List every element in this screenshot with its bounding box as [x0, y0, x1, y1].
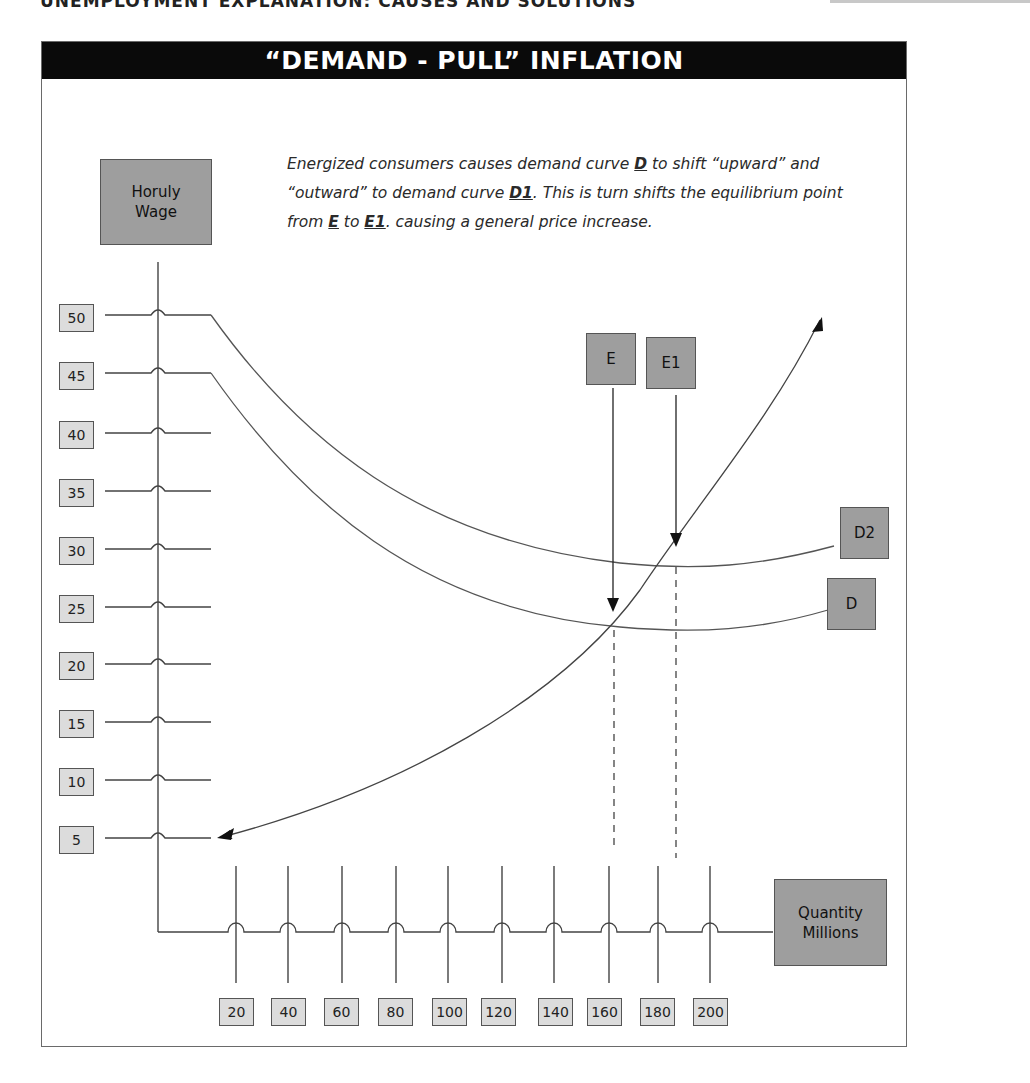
y-axis	[105, 262, 211, 932]
supply-curve	[222, 320, 820, 837]
y-tick-label: 50	[59, 304, 94, 332]
supply-arrowhead-down-icon	[217, 828, 234, 840]
y-tick-text: 30	[68, 543, 86, 559]
x-tick-label: 120	[481, 998, 516, 1026]
x-tick-label: 180	[640, 998, 675, 1026]
y-tick-label: 35	[59, 479, 94, 507]
label-d2-text: D2	[854, 523, 875, 543]
x-tick-text: 160	[591, 1004, 618, 1020]
y-tick-label: 20	[59, 652, 94, 680]
x-tick-text: 20	[228, 1004, 246, 1020]
demand-curve-d2	[211, 315, 834, 567]
x-tick-text: 180	[644, 1004, 671, 1020]
x-tick-label: 80	[378, 998, 413, 1026]
x-tick-text: 80	[387, 1004, 405, 1020]
y-tick-text: 40	[68, 427, 86, 443]
y-tick-text: 45	[68, 368, 86, 384]
x-tick-text: 200	[697, 1004, 724, 1020]
y-tick-text: 5	[72, 832, 81, 848]
x-tick-label: 60	[324, 998, 359, 1026]
x-tick-label: 160	[587, 998, 622, 1026]
y-axis-title-text: Horuly Wage	[121, 182, 191, 222]
x-tick-text: 140	[542, 1004, 569, 1020]
x-axis-title-text: Quantity Millions	[791, 903, 871, 943]
x-tick-text: 60	[333, 1004, 351, 1020]
y-tick-label: 40	[59, 421, 94, 449]
x-tick-text: 100	[436, 1004, 463, 1020]
y-tick-text: 50	[68, 310, 86, 326]
y-tick-text: 10	[68, 774, 86, 790]
label-d: D	[827, 578, 876, 630]
y-tick-label: 5	[59, 826, 94, 854]
x-tick-label: 200	[693, 998, 728, 1026]
label-e: E	[586, 333, 636, 385]
y-tick-label: 15	[59, 710, 94, 738]
y-tick-text: 35	[68, 485, 86, 501]
supply-arrowhead-up-icon	[812, 317, 823, 332]
y-tick-text: 25	[68, 601, 86, 617]
label-e-text: E	[606, 349, 615, 369]
x-tick-label: 100	[432, 998, 467, 1026]
y-tick-label: 45	[59, 362, 94, 390]
y-tick-label: 30	[59, 537, 94, 565]
x-axis	[158, 866, 773, 983]
label-e1-text: E1	[661, 353, 680, 373]
label-d2: D2	[840, 507, 889, 559]
demand-curve-d	[211, 373, 828, 630]
y-axis-title: Horuly Wage	[100, 159, 212, 245]
y-tick-text: 15	[68, 716, 86, 732]
y-tick-label: 10	[59, 768, 94, 796]
x-tick-label: 140	[538, 998, 573, 1026]
y-tick-text: 20	[68, 658, 86, 674]
x-tick-label: 40	[271, 998, 306, 1026]
x-tick-text: 120	[485, 1004, 512, 1020]
x-tick-text: 40	[280, 1004, 298, 1020]
label-d-text: D	[846, 594, 858, 614]
x-tick-label: 20	[219, 998, 254, 1026]
label-e1: E1	[646, 337, 696, 389]
y-tick-label: 25	[59, 595, 94, 623]
arrow-e-head-icon	[607, 598, 619, 612]
x-axis-title: Quantity Millions	[774, 879, 887, 966]
